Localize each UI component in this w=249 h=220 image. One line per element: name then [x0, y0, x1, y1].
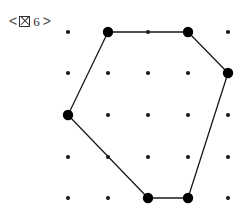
- grid-dot: [106, 196, 110, 200]
- grid-dot: [186, 155, 190, 159]
- grid-dot: [226, 30, 230, 34]
- polygon-vertex-dot: [63, 110, 73, 120]
- grid-dot: [146, 71, 150, 75]
- grid-dot: [186, 113, 190, 117]
- grid-dot: [226, 196, 230, 200]
- polygon-vertex-dot: [183, 27, 193, 37]
- grid-dot: [146, 155, 150, 159]
- polygon-vertex-dot: [183, 193, 193, 203]
- grid-dot: [106, 71, 110, 75]
- grid-dot: [226, 113, 230, 117]
- grid-dot: [66, 155, 70, 159]
- figure-container: < 6 >: [0, 0, 249, 220]
- grid-dot: [186, 71, 190, 75]
- polygon-vertex-dot: [223, 68, 233, 78]
- grid-dot: [66, 30, 70, 34]
- grid-dot: [106, 113, 110, 117]
- grid-dot: [66, 71, 70, 75]
- polygon-vertex-dot: [103, 27, 113, 37]
- grid-dot: [66, 196, 70, 200]
- grid-dot: [106, 155, 110, 159]
- grid-dot: [226, 155, 230, 159]
- dot-grid-plot: [0, 0, 249, 220]
- polygon-vertex-dot: [143, 193, 153, 203]
- grid-dots-layer: [63, 27, 233, 203]
- grid-dot: [146, 30, 150, 34]
- grid-dot: [146, 113, 150, 117]
